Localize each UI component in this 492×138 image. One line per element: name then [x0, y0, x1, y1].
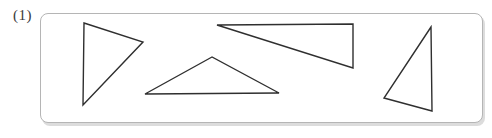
triangle-4	[384, 27, 432, 111]
triangles-canvas	[0, 0, 492, 138]
triangle-1	[83, 23, 143, 105]
triangle-2	[145, 57, 279, 94]
triangle-3	[217, 24, 353, 68]
worksheet-figure: (1)	[0, 0, 492, 138]
